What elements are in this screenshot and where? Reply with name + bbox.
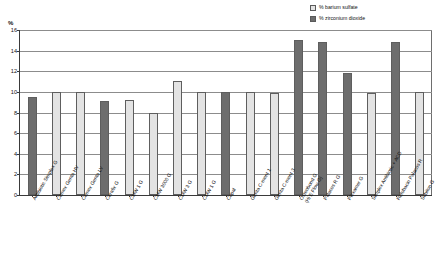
y-tick-mark [17, 195, 20, 196]
legend-item: % zirconium dioxide [310, 14, 365, 23]
x-label-slot: Subiton G [407, 197, 431, 267]
bar[interactable] [391, 42, 400, 195]
x-label-slot: Refobacin Palacos R [383, 197, 407, 267]
x-label-slot: Cemex Genta HV [43, 197, 67, 267]
plot-area: 0246810121416 [19, 30, 432, 196]
chart-legend: % barium sulfate% zirconium dioxide [310, 3, 365, 23]
legend-item-label: % zirconium dioxide [319, 15, 365, 22]
bar[interactable] [294, 40, 303, 195]
y-tick-label: 16 [11, 27, 17, 33]
x-axis-labels: Antibiotic Simplex GCemex Genta HVCemex … [19, 197, 431, 267]
y-tick-label: 12 [11, 68, 17, 74]
x-label-slot: Copal [213, 197, 237, 267]
y-tick-label: 6 [14, 130, 17, 136]
bar-slot [117, 30, 141, 195]
bar-group [20, 30, 432, 195]
bar[interactable] [149, 113, 158, 196]
bar[interactable] [343, 73, 352, 195]
bar-slot [141, 30, 165, 195]
y-axis-title: % [8, 20, 13, 26]
y-tick-label: 0 [14, 192, 17, 198]
legend-swatch-icon [310, 5, 316, 11]
x-label-slot: Osteobond G(Hi E Flow G) [286, 197, 310, 267]
bar[interactable] [246, 92, 255, 195]
bar-slot [238, 30, 262, 195]
x-label-slot: Plexamer G [334, 197, 358, 267]
x-label-slot: Cerafix G [92, 197, 116, 267]
y-tick-label: 2 [14, 171, 17, 177]
x-label-slot: CMW 3000 G [140, 197, 164, 267]
bar[interactable] [76, 92, 85, 195]
bar-slot [165, 30, 189, 195]
bar-slot [214, 30, 238, 195]
bar[interactable] [197, 92, 206, 195]
bar[interactable] [221, 92, 230, 195]
bar[interactable] [270, 93, 279, 195]
bar[interactable] [52, 92, 61, 195]
y-tick-label: 8 [14, 110, 17, 116]
bar-slot [335, 30, 359, 195]
bar[interactable] [415, 92, 424, 195]
bar[interactable] [318, 42, 327, 195]
bar-slot [20, 30, 44, 195]
legend-item-label: % barium sulfate [319, 4, 358, 11]
bar[interactable] [173, 81, 182, 195]
x-label-slot: CMW 3 G [164, 197, 188, 267]
bar-slot [311, 30, 335, 195]
legend-swatch-icon [310, 16, 316, 22]
x-label-slot: Antibiotic Simplex G [19, 197, 43, 267]
bar[interactable] [367, 93, 376, 195]
bar[interactable] [125, 100, 134, 195]
y-tick-label: 14 [11, 48, 17, 54]
x-label-slot: Simplex Antibiotic + ACD [358, 197, 382, 267]
x-label-slot: CMW 1 G [116, 197, 140, 267]
bar-chart: % barium sulfate% zirconium dioxide % 02… [0, 0, 442, 268]
x-label-slot: Genta C-ment 1 [237, 197, 261, 267]
legend-item: % barium sulfate [310, 3, 365, 12]
bar[interactable] [100, 101, 109, 195]
x-label-slot: Palacos R G [310, 197, 334, 267]
bar[interactable] [28, 97, 37, 195]
x-label-slot: Cemex Genta LV [67, 197, 91, 267]
x-label-slot: Genta C-ment 3 [261, 197, 285, 267]
y-tick-label: 4 [14, 151, 17, 157]
y-tick-label: 10 [11, 89, 17, 95]
x-label-slot: CMW 1 G [189, 197, 213, 267]
bar-slot [190, 30, 214, 195]
bar-slot [359, 30, 383, 195]
